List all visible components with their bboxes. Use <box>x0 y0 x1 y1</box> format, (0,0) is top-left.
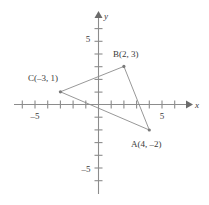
coordinate-plane-figure: x y –5 5 5 –5 B(2, 3) C(–3, 1) A(4, –2) <box>0 0 209 205</box>
point-label-a: A(4, –2) <box>131 139 162 149</box>
y-axis-label: y <box>103 11 108 21</box>
x-axis-label: x <box>194 100 199 110</box>
y-axis-arrow-icon <box>95 11 103 18</box>
y-tick-label-minus5: –5 <box>81 164 92 174</box>
point-label-b: B(2, 3) <box>113 49 139 59</box>
vertex-dot-c <box>59 90 62 93</box>
vertex-dot-b <box>122 65 125 68</box>
vertex-dot-a <box>148 128 151 131</box>
graph-svg: x y –5 5 5 –5 B(2, 3) C(–3, 1) A(4, –2) <box>0 0 209 205</box>
x-tick-label-minus5: –5 <box>30 111 41 121</box>
x-tick-label-5: 5 <box>160 111 165 121</box>
x-axis-arrow-icon <box>186 101 193 109</box>
point-label-c: C(–3, 1) <box>28 73 58 83</box>
triangle-abc <box>60 66 149 130</box>
y-tick-label-5: 5 <box>86 34 91 44</box>
